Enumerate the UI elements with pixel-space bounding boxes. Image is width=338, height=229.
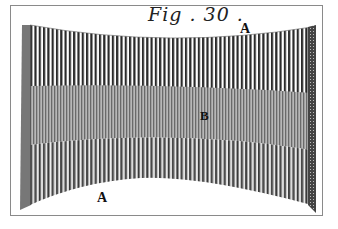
comb-illustration [0, 0, 338, 229]
label-a-bottom: A [97, 190, 107, 206]
left-end-piece [20, 25, 31, 210]
figure-title: Fig . 30 . [148, 3, 244, 25]
label-a-top: A [240, 21, 250, 37]
right-end-piece [308, 25, 316, 213]
label-b: B [200, 108, 209, 124]
